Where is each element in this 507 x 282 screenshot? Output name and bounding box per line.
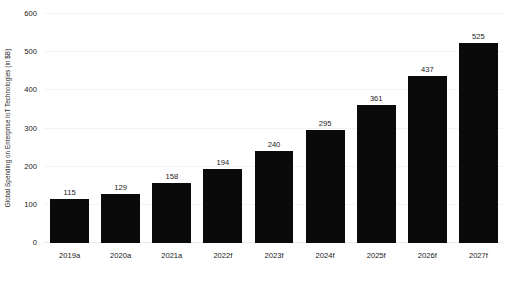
bar-slot: 525 — [453, 14, 504, 243]
bar-value-label: 240 — [248, 140, 299, 149]
y-axis-tick-label: 400 — [24, 86, 37, 94]
x-axis-tick-label: 2023f — [248, 249, 299, 263]
bar-value-label: 129 — [95, 183, 146, 192]
x-axis-tick-label: 2020a — [95, 249, 146, 263]
x-axis-tick-label: 2026f — [402, 249, 453, 263]
y-axis-tick-label: 0 — [33, 239, 37, 247]
bar-value-label: 361 — [351, 94, 402, 103]
plot-area: 115129158194240295361437525 — [44, 14, 504, 243]
bar-slot: 240 — [248, 14, 299, 243]
bar-slot: 158 — [146, 14, 197, 243]
bar[interactable] — [203, 169, 242, 243]
bar[interactable] — [459, 43, 498, 243]
bar[interactable] — [408, 76, 447, 243]
y-axis-tick-label: 600 — [24, 10, 37, 18]
bar[interactable] — [50, 199, 89, 243]
x-axis-tick-label: 2024f — [300, 249, 351, 263]
bar-value-label: 158 — [146, 172, 197, 181]
bar-slot: 194 — [197, 14, 248, 243]
bar[interactable] — [357, 105, 396, 243]
bar-chart: Global Spending on Enterprise IoT Techno… — [0, 0, 507, 282]
y-axis-tick-label: 300 — [24, 125, 37, 133]
x-axis-tick-label: 2027f — [453, 249, 504, 263]
x-axis-tick-label: 2025f — [351, 249, 402, 263]
bar-value-label: 295 — [300, 119, 351, 128]
bar-slot: 129 — [95, 14, 146, 243]
y-axis-tick-labels: 0100200300400500600 — [0, 0, 40, 282]
bar-slot: 115 — [44, 14, 95, 243]
bar[interactable] — [101, 194, 140, 243]
bar-series: 115129158194240295361437525 — [44, 14, 504, 243]
bar-value-label: 115 — [44, 188, 95, 197]
bar-value-label: 437 — [402, 65, 453, 74]
bar-value-label: 194 — [197, 158, 248, 167]
bar-value-label: 525 — [453, 32, 504, 41]
bar-slot: 361 — [351, 14, 402, 243]
x-axis-tick-labels: 2019a2020a2021a2022f2023f2024f2025f2026f… — [44, 249, 504, 263]
y-axis-tick-label: 100 — [24, 201, 37, 209]
bar-slot: 437 — [402, 14, 453, 243]
y-axis-tick-label: 200 — [24, 163, 37, 171]
x-axis-tick-label: 2022f — [197, 249, 248, 263]
x-axis-tick-label: 2021a — [146, 249, 197, 263]
bar[interactable] — [255, 151, 294, 243]
bar[interactable] — [306, 130, 345, 243]
bar[interactable] — [152, 183, 191, 243]
bar-slot: 295 — [300, 14, 351, 243]
x-axis-tick-label: 2019a — [44, 249, 95, 263]
y-axis-tick-label: 500 — [24, 48, 37, 56]
